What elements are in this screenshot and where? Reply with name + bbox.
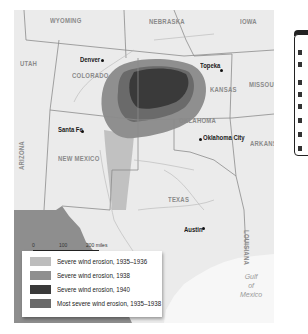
legend-item: Severe wind erosion, 1938 [30,270,140,280]
city-label-oklahoma-city: Oklahoma City [203,134,245,141]
legend-swatch [30,285,51,294]
side-panel-text-fragment [298,50,302,55]
side-panel-text-fragment [298,62,302,67]
legend-swatch [30,271,51,280]
state-label-arizona: ARIZONA [18,141,25,170]
state-label-wyoming: WYOMING [50,17,82,24]
city-label-denver: Denver [80,56,100,63]
legend-item: Most severe wind erosion, 1935–1938 [30,298,175,308]
city-marker-austin [202,227,205,230]
city-marker-oklahoma-city [199,138,202,141]
legend-item: Severe wind erosion, 1935–1936 [30,256,159,266]
state-label-new-mexico: NEW MEXICO [58,155,100,162]
city-marker-denver [101,59,104,62]
side-panel-text-fragment [298,132,302,137]
side-panel-text-fragment [298,118,302,123]
city-marker-topeka [220,69,223,72]
state-label-utah: UTAH [20,60,37,67]
map-legend: Severe wind erosion, 1935–1936 Severe wi… [22,251,162,317]
state-label-arkansas: ARKANSAS [250,140,274,147]
city-label-topeka: Topeka [200,62,220,69]
state-label-oklahoma: OKLAHOMA [179,117,216,124]
state-label-colorado: COLORADO [72,72,109,79]
city-label-santa-fe: Santa Fe [58,126,83,133]
water-label-gulf-of-mexico: Gulf of Mexico [240,272,262,299]
city-label-austin: Austin [184,226,203,233]
legend-item: Severe wind erosion, 1940 [30,284,140,294]
side-panel-text-fragment [298,80,302,85]
legend-swatch [30,257,51,266]
state-label-missouri: MISSOURI [249,81,274,88]
state-label-nebraska: NEBRASKA [149,18,185,25]
legend-swatch [30,299,51,308]
side-panel-text-fragment [298,104,302,109]
state-label-louisiana: LOUISIANA [243,230,250,265]
erosion-overlay [101,59,206,210]
side-panel-text-fragment [298,92,302,97]
side-panel-text-fragment [298,146,302,151]
state-label-kansas: KANSAS [210,86,237,93]
state-label-texas: TEXAS [168,196,189,203]
state-label-iowa: IOWA [240,18,257,25]
city-marker-santa-fe [81,130,84,133]
